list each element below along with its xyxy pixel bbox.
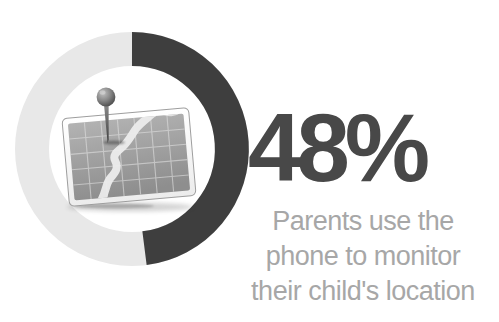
map-surface	[68, 114, 190, 201]
map-with-pin-icon	[61, 99, 196, 207]
pushpin-head-highlight	[100, 90, 106, 94]
stat-caption-line-1: Parents use the	[229, 204, 497, 239]
stat-caption-line-3: their child's location	[229, 274, 497, 309]
stat-value: 48%	[248, 100, 425, 196]
stat-caption: Parents use the phone to monitor their c…	[229, 204, 497, 309]
pushpin-shadow	[103, 141, 125, 145]
stat-caption-line-2: phone to monitor	[229, 239, 497, 274]
infographic: 48% Parents use the phone to monitor the…	[0, 0, 499, 322]
pushpin-head	[97, 88, 116, 107]
